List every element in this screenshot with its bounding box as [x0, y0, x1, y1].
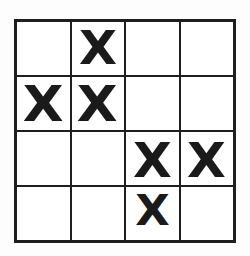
grid-cell-r4c2[interactable] [72, 187, 127, 240]
grid-row: X [17, 187, 233, 240]
grid-row: X X [17, 77, 233, 132]
grid-cell-r2c4[interactable] [181, 77, 234, 130]
grid-cell-r1c4[interactable] [181, 22, 234, 75]
grid-cell-r1c2[interactable]: X [72, 22, 127, 75]
grid-figure: X X X X X [14, 19, 236, 243]
grid-cell-r4c1[interactable] [17, 187, 72, 240]
grid-cell-r4c3[interactable]: X [126, 187, 181, 240]
grid-cell-r3c3[interactable]: X [126, 132, 181, 185]
cell-mark: X [135, 189, 169, 232]
grid-cell-r2c1[interactable]: X [17, 77, 72, 130]
cell-mark: X [187, 136, 226, 184]
grid-cell-r2c3[interactable] [126, 77, 181, 130]
cell-mark: X [23, 79, 64, 129]
grid-row: X X [17, 132, 233, 187]
cell-mark: X [77, 79, 118, 129]
grid-cell-r2c2[interactable]: X [72, 77, 127, 130]
grid-row: X [17, 22, 233, 77]
cell-mark: X [133, 136, 172, 184]
grid-cell-r4c4[interactable] [181, 187, 234, 240]
grid-cell-r3c2[interactable] [72, 132, 127, 185]
grid-cell-r3c1[interactable] [17, 132, 72, 185]
grid-cell-r1c3[interactable] [126, 22, 181, 75]
cell-mark: X [79, 24, 117, 71]
grid-cell-r1c1[interactable] [17, 22, 72, 75]
grid-cell-r3c4[interactable]: X [181, 132, 234, 185]
